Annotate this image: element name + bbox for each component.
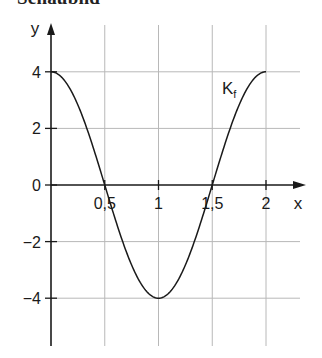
y-tick-label: −2: [23, 234, 41, 251]
y-tick-label: −4: [23, 290, 41, 307]
y-tick-label: 0: [32, 177, 41, 194]
labels: xyKf: [31, 19, 303, 213]
curve-label-sub: f: [233, 88, 237, 100]
x-axis-arrow-icon: [293, 181, 306, 189]
y-axis-arrow-icon: [47, 23, 55, 35]
x-tick-label: 2: [262, 195, 271, 212]
x-axis-label: x: [294, 194, 303, 213]
y-tick-label: 4: [32, 64, 41, 81]
y-axis-label: y: [31, 19, 40, 38]
y-tick-label: 2: [32, 120, 41, 137]
curve-label: Kf: [222, 79, 237, 100]
curve-label-main: K: [222, 79, 234, 98]
x-tick-label: 1: [154, 195, 163, 212]
chart: 0,511,52420−2−4 xyKf: [0, 0, 322, 358]
